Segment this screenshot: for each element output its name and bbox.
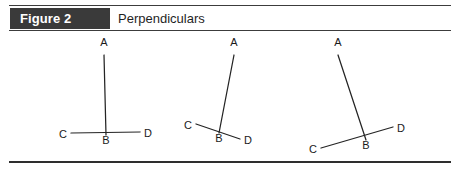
diagram-perpendicular-tilted-left: A B C D: [180, 32, 300, 160]
header-bottom-rule: [9, 30, 451, 31]
vertex-label-C: C: [184, 119, 192, 131]
vertex-label-A: A: [334, 36, 342, 48]
vertex-label-D: D: [397, 122, 405, 134]
vertex-label-B: B: [215, 132, 222, 144]
segment-AB: [338, 55, 366, 140]
figure-number-tag: Figure 2: [10, 8, 110, 29]
vertex-label-C: C: [309, 143, 317, 155]
segment-AB: [104, 55, 106, 135]
diagram-3-canvas: A B C D: [300, 32, 440, 160]
vertex-label-D: D: [144, 127, 152, 139]
vertex-label-C: C: [59, 128, 67, 140]
vertex-label-D: D: [244, 134, 252, 146]
diagram-1-canvas: A B C D: [55, 32, 180, 160]
diagram-row: A B C D A B C D A B C: [0, 32, 461, 160]
figure-title: Perpendiculars: [118, 10, 205, 28]
vertex-label-A: A: [230, 36, 238, 48]
figure-bottom-rule: [9, 161, 451, 163]
header-top-rule: [9, 5, 451, 6]
figure-container: Figure 2 Perpendiculars A B C D A B C D: [0, 0, 461, 170]
segment-AB: [219, 55, 234, 133]
diagram-2-canvas: A B C D: [180, 32, 300, 160]
segment-CD: [71, 132, 140, 133]
vertex-label-A: A: [100, 36, 108, 48]
vertex-label-B: B: [362, 139, 369, 151]
diagram-perpendicular-tilted-right: A B C D: [300, 32, 440, 160]
segment-CD: [321, 127, 393, 148]
diagram-perpendicular-vertical: A B C D: [55, 32, 180, 160]
vertex-label-B: B: [102, 134, 109, 146]
